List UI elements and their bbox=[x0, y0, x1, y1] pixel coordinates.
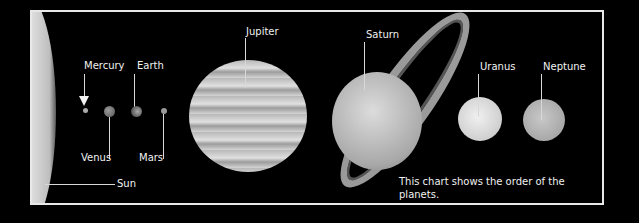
mars-label: Mars bbox=[139, 152, 163, 164]
saturn-leader-line bbox=[364, 42, 365, 90]
mercury-label: Mercury bbox=[84, 60, 125, 72]
diagram-frame: Sun Mercury Venus Earth Mars Jupiter Sat… bbox=[30, 10, 604, 205]
sun-label: Sun bbox=[117, 178, 136, 190]
caption-line-1: This chart shows the order of the planet… bbox=[399, 175, 602, 201]
sun-image bbox=[30, 10, 56, 205]
earth-planet bbox=[131, 106, 142, 117]
caption-line-2: Mercury is closest to the sun. bbox=[399, 201, 602, 205]
venus-label: Venus bbox=[81, 152, 111, 164]
mercury-arrow-icon bbox=[79, 96, 89, 106]
earth-label: Earth bbox=[137, 60, 164, 72]
jupiter-label: Jupiter bbox=[246, 26, 279, 38]
neptune-planet bbox=[523, 99, 565, 141]
uranus-leader-line bbox=[478, 74, 479, 117]
mars-leader-line bbox=[163, 114, 164, 159]
mercury-leader-line bbox=[84, 74, 85, 96]
mercury-planet bbox=[83, 108, 88, 113]
earth-leader-line bbox=[134, 74, 135, 108]
caption: This chart shows the order of the planet… bbox=[399, 175, 602, 205]
sun-leader-line bbox=[45, 184, 115, 185]
saturn-planet bbox=[332, 72, 422, 170]
jupiter-leader-line bbox=[245, 38, 246, 88]
neptune-label: Neptune bbox=[543, 61, 586, 73]
venus-planet bbox=[104, 106, 115, 117]
uranus-planet bbox=[458, 97, 502, 141]
mars-planet bbox=[161, 108, 167, 114]
neptune-leader-line bbox=[541, 74, 542, 120]
uranus-label: Uranus bbox=[480, 61, 515, 73]
jupiter-planet bbox=[189, 60, 307, 172]
saturn-label: Saturn bbox=[366, 29, 399, 41]
